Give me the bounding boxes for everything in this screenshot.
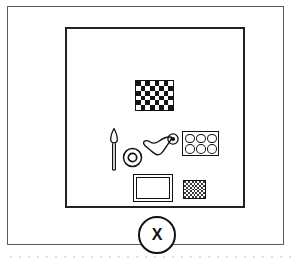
texture-square-icon xyxy=(183,180,206,199)
tray-well xyxy=(196,144,206,154)
texture-cell xyxy=(203,196,205,198)
callout-x-label: X xyxy=(152,227,163,243)
picture-frame-inner xyxy=(136,177,170,199)
checkerboard-mat-icon xyxy=(135,80,174,111)
texture-grid xyxy=(184,181,205,198)
well-tray-grid xyxy=(184,133,217,154)
tray-well xyxy=(185,144,195,154)
brush-svg xyxy=(108,127,120,171)
brush-icon xyxy=(108,127,120,171)
picture-frame-icon xyxy=(133,174,173,202)
outer-frame: X xyxy=(7,6,284,245)
tray-well xyxy=(196,134,206,144)
well-tray-icon xyxy=(182,131,219,156)
tray-well xyxy=(185,134,195,144)
scan-artifact-line xyxy=(10,256,292,258)
checkerboard-cell xyxy=(168,105,173,110)
tray-well xyxy=(207,134,217,144)
figure-canvas: X xyxy=(0,0,295,262)
ring-large-svg xyxy=(122,147,143,168)
checkerboard-grid xyxy=(136,81,173,110)
tray-well xyxy=(207,144,217,154)
ring-small-svg xyxy=(167,133,179,145)
ring-small-icon xyxy=(167,131,179,143)
ring-large-icon xyxy=(122,147,143,168)
callout-x-badge: X xyxy=(138,216,176,254)
